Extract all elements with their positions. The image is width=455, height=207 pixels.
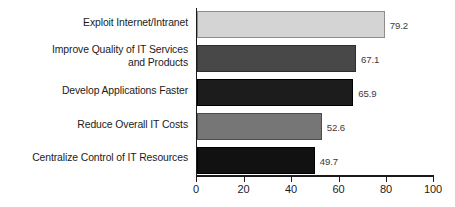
x-axis-tick-40	[291, 176, 292, 182]
x-axis-tick-label-80: 80	[380, 183, 392, 195]
bar-chart: Exploit Internet/Intranet Improve Qualit…	[0, 0, 455, 207]
x-axis-tick-0	[196, 176, 197, 182]
bar-develop-applications-faster	[197, 79, 353, 106]
bar-exploit-internet-intranet	[197, 11, 385, 38]
category-axis-labels: Exploit Internet/Intranet Improve Qualit…	[0, 0, 188, 180]
bar-value-label-0: 79.2	[390, 20, 408, 31]
bar-value-label-1: 67.1	[361, 54, 379, 65]
bar-reduce-overall-it-costs	[197, 113, 322, 140]
x-axis-tick-label-0: 0	[193, 183, 199, 195]
x-axis-tick-80	[386, 176, 387, 182]
x-axis-tick-label-40: 40	[285, 183, 297, 195]
x-axis-tick-100	[433, 176, 434, 182]
x-axis-tick-60	[339, 176, 340, 182]
plot-area: 0 20 40 60 80 100 79.2 67.1 65.9 52.6 49…	[196, 0, 436, 180]
bar-improve-quality-of-it-services	[197, 45, 356, 72]
bar-value-label-3: 52.6	[327, 122, 345, 133]
x-axis-line	[196, 175, 434, 177]
bar-centralize-control-of-it-resources	[197, 147, 315, 174]
bar-value-label-2: 65.9	[358, 88, 376, 99]
x-axis-tick-20	[244, 176, 245, 182]
bar-value-label-4: 49.7	[320, 156, 338, 167]
x-axis-tick-label-100: 100	[424, 183, 442, 195]
category-label-develop-applications-faster: Develop Applications Faster	[2, 85, 188, 98]
category-label-centralize-control-of-it-resources: Centralize Control of IT Resources	[2, 152, 188, 165]
category-label-exploit-internet-intranet: Exploit Internet/Intranet	[2, 17, 188, 30]
category-label-improve-quality-of-it-services: Improve Quality of IT Services and Produ…	[2, 44, 188, 69]
category-label-reduce-overall-it-costs: Reduce Overall IT Costs	[2, 119, 188, 132]
x-axis-tick-label-20: 20	[238, 183, 250, 195]
x-axis-tick-label-60: 60	[333, 183, 345, 195]
